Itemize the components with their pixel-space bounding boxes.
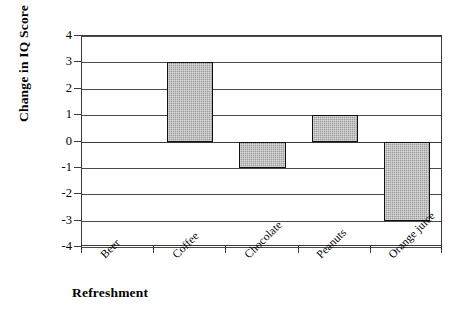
y-tick-label: -3: [46, 214, 72, 226]
bar-chart: Change in IQ Score 43210-1-2-3-4 BeerCof…: [0, 0, 467, 320]
y-tick-label: 1: [46, 108, 72, 120]
x-axis-title: Refreshment: [72, 285, 148, 301]
y-tick-mark: [74, 88, 81, 89]
y-tick-mark: [74, 220, 81, 221]
y-tick-label: 2: [46, 82, 72, 94]
y-tick-mark: [74, 35, 81, 36]
bar-coffee: [167, 62, 213, 141]
gridline--3: [82, 221, 441, 222]
y-tick-label: 4: [46, 29, 72, 41]
y-tick-mark: [74, 141, 81, 142]
y-tick-mark: [74, 167, 81, 168]
y-tick-label: 3: [46, 55, 72, 67]
y-tick-mark: [74, 193, 81, 194]
gridline-4: [82, 36, 441, 37]
plot-area: [81, 35, 442, 246]
y-axis-ticks: 43210-1-2-3-4: [0, 35, 81, 246]
bar-peanuts: [312, 115, 358, 141]
y-tick-label: -4: [46, 240, 72, 252]
gridline-2: [82, 89, 441, 90]
x-axis-category-labels: BeerCoffeeChocolatePeanutsOrange juice: [81, 246, 442, 316]
gridline-1: [82, 115, 441, 116]
y-tick-label: 0: [46, 135, 72, 147]
y-tick-mark: [74, 61, 81, 62]
y-tick-label: -1: [46, 161, 72, 173]
y-tick-mark: [74, 246, 81, 247]
bar-orange-juice: [384, 142, 430, 221]
bar-chocolate: [239, 142, 285, 168]
y-tick-label: -2: [46, 187, 72, 199]
gridline-3: [82, 62, 441, 63]
y-tick-mark: [74, 114, 81, 115]
